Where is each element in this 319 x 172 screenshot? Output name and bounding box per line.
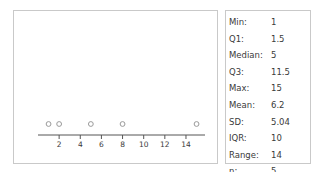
dotplot-panel: 2468101214 bbox=[13, 10, 218, 164]
stat-row-mean: Mean: 6.2 bbox=[229, 97, 310, 114]
stat-label-mean: Mean: bbox=[229, 97, 271, 114]
stat-label-median: Median: bbox=[229, 47, 271, 64]
x-axis-tick-label: 6 bbox=[99, 140, 104, 149]
x-axis-tick-label: 8 bbox=[120, 140, 125, 149]
data-point-marker bbox=[88, 122, 93, 127]
stat-label-q1: Q1: bbox=[229, 31, 271, 48]
data-point-marker bbox=[120, 122, 125, 127]
stat-value-q1: 1.5 bbox=[271, 31, 285, 48]
x-axis-tick-label: 10 bbox=[139, 140, 149, 149]
stat-label-max: Max: bbox=[229, 80, 271, 97]
stat-row-range: Range: 14 bbox=[229, 147, 310, 164]
stat-value-q3: 11.5 bbox=[271, 64, 290, 81]
data-point-marker bbox=[194, 122, 199, 127]
dotplot-svg: 2468101214 bbox=[14, 11, 217, 163]
stat-value-median: 5 bbox=[271, 47, 276, 64]
stat-value-iqr: 10 bbox=[271, 130, 282, 147]
stat-row-iqr: IQR: 10 bbox=[229, 130, 310, 147]
stat-value-mean: 6.2 bbox=[271, 97, 285, 114]
stat-row-q1: Q1: 1.5 bbox=[229, 31, 310, 48]
stat-label-min: Min: bbox=[229, 14, 271, 31]
x-axis-tick-label: 12 bbox=[160, 140, 170, 149]
stat-value-sd: 5.04 bbox=[271, 114, 290, 131]
stat-value-n: 5 bbox=[271, 163, 276, 172]
data-point-marker bbox=[57, 122, 62, 127]
stat-row-median: Median: 5 bbox=[229, 47, 310, 64]
stat-row-sd: SD: 5.04 bbox=[229, 114, 310, 131]
stat-label-iqr: IQR: bbox=[229, 130, 271, 147]
stat-row-min: Min: 1 bbox=[229, 14, 310, 31]
stat-label-n: n: bbox=[229, 163, 271, 172]
stat-value-min: 1 bbox=[271, 14, 276, 31]
stat-label-q3: Q3: bbox=[229, 64, 271, 81]
summary-statistics-panel: Min: 1 Q1: 1.5 Median: 5 Q3: 11.5 Max: 1… bbox=[225, 10, 311, 164]
stat-value-max: 15 bbox=[271, 80, 282, 97]
x-axis-tick-label: 2 bbox=[57, 140, 62, 149]
x-axis-tick-label: 14 bbox=[181, 140, 191, 149]
stat-row-n: n: 5 bbox=[229, 163, 310, 172]
stat-label-sd: SD: bbox=[229, 114, 271, 131]
stat-row-q3: Q3: 11.5 bbox=[229, 64, 310, 81]
stat-value-range: 14 bbox=[271, 147, 282, 164]
screenshot-root: 2468101214 Min: 1 Q1: 1.5 Median: 5 Q3: … bbox=[0, 0, 319, 172]
stat-row-max: Max: 15 bbox=[229, 80, 310, 97]
x-axis-tick-label: 4 bbox=[78, 140, 83, 149]
data-point-marker bbox=[46, 122, 51, 127]
stat-label-range: Range: bbox=[229, 147, 271, 164]
